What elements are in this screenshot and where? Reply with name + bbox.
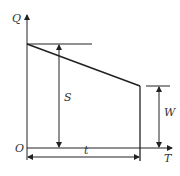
- inventory-diagram: Q T O S W t: [0, 0, 180, 176]
- q-axis-label: Q: [12, 12, 21, 25]
- inventory-depletion-line: [27, 44, 140, 86]
- w-label: W: [164, 106, 177, 119]
- s-label: S: [64, 91, 72, 104]
- t-label: t: [84, 144, 89, 157]
- origin-label: O: [15, 142, 24, 155]
- t-axis-label: T: [164, 152, 173, 165]
